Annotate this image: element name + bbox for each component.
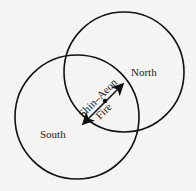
north-label: North <box>131 66 157 78</box>
south-circle <box>15 55 139 179</box>
south-label: South <box>40 128 66 140</box>
venn-diagram: North South Shin–Aeon Fire <box>0 0 196 191</box>
